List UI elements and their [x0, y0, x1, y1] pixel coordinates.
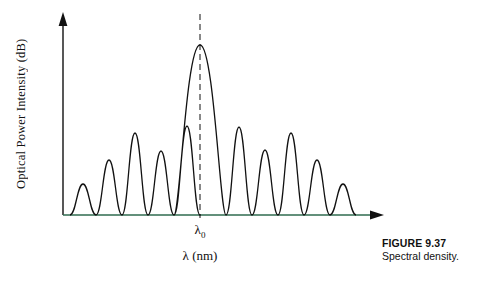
- spectral-density-curve: [70, 45, 356, 215]
- x-axis: [63, 211, 384, 220]
- figure-caption-title: FIGURE 9.37: [382, 237, 494, 250]
- y-axis-label: Optical Power Intensity (dB): [14, 24, 30, 204]
- center-wavelength-tick-label: λ0: [168, 222, 232, 240]
- y-axis: [59, 12, 68, 215]
- figure-caption: FIGURE 9.37 Spectral density.: [382, 237, 494, 263]
- x-axis-label: λ (nm): [160, 248, 240, 264]
- figure-caption-text: Spectral density.: [382, 250, 494, 263]
- figure-container: Optical Power Intensity (dB) λ0 λ (nm) F…: [0, 0, 497, 283]
- lambda-subscript: 0: [201, 230, 206, 240]
